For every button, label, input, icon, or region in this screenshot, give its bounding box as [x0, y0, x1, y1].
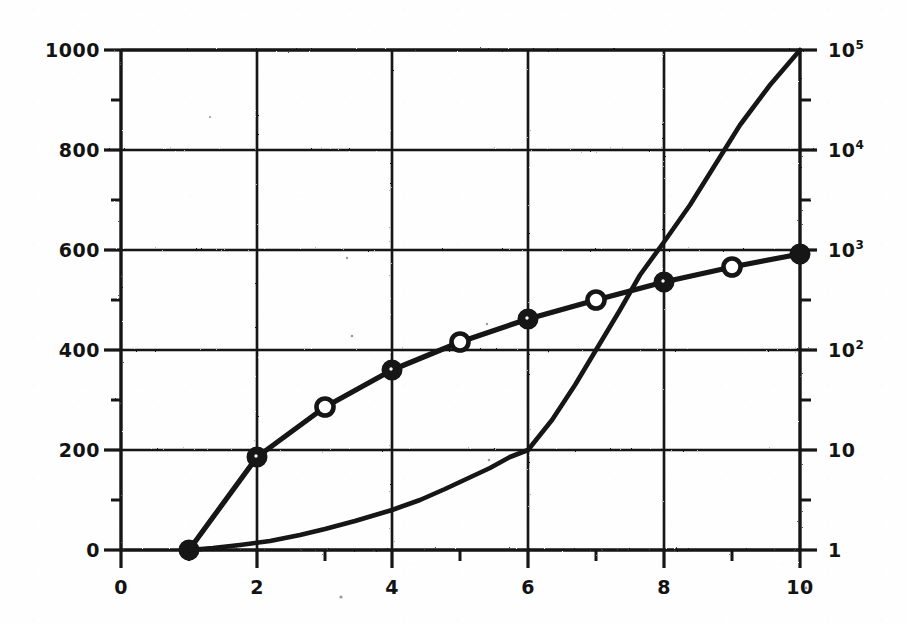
x-axis-tick-label: 2 [250, 578, 264, 597]
x-axis-tick-label: 8 [657, 578, 671, 597]
right-axis-tick-label: 105 [828, 41, 864, 60]
left-axis-tick-label: 1000 [45, 41, 100, 60]
chart-figure: 1000 800 600 400 200 0 105 104 103 102 1… [0, 0, 907, 624]
left-axis-tick-label: 600 [59, 241, 100, 260]
right-axis-tick-label: 10 [828, 441, 855, 460]
series-exponential-curve [189, 50, 800, 550]
right-axis-tick-label: 103 [828, 241, 864, 260]
plot-frame [121, 50, 800, 550]
data-point-marker [791, 245, 810, 264]
data-point-marker [317, 399, 334, 416]
right-axis-tick-label: 104 [828, 141, 864, 160]
right-axis-tick-label: 1 [828, 541, 842, 560]
left-axis-tick-label: 800 [59, 141, 100, 160]
left-axis-tick-label: 400 [59, 341, 100, 360]
x-axis-tick-label: 6 [521, 578, 535, 597]
x-axis-tick-label: 10 [786, 578, 813, 597]
data-point-marker [452, 334, 469, 351]
x-axis-tick-label: 0 [114, 578, 128, 597]
left-axis-tick-label: 0 [86, 541, 100, 560]
logarithmic-curve-markers [180, 245, 810, 560]
chart-canvas [0, 0, 907, 624]
left-axis-tick-label: 200 [59, 441, 100, 460]
series-logarithmic-curve [189, 254, 800, 550]
data-point-marker [724, 259, 741, 276]
data-point-marker [588, 292, 605, 309]
x-axis-tick-label: 4 [385, 578, 399, 597]
scan-specks [209, 116, 808, 599]
logarithmic-curve-line [189, 254, 800, 550]
right-axis-tick-label: 102 [828, 341, 864, 360]
